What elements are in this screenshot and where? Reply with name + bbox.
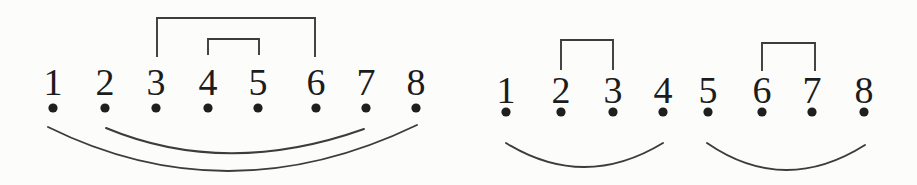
point-label-2: 2 <box>552 69 571 111</box>
pairing-diagrams-canvas: 1234567812345678 <box>0 0 917 185</box>
point-label-5: 5 <box>699 69 718 111</box>
point-label-6: 6 <box>307 61 326 103</box>
bottom-arc-2-7 <box>106 128 364 153</box>
point-dot-7 <box>807 107 816 116</box>
point-label-7: 7 <box>357 61 376 103</box>
left-matching-diagram: 12345678 <box>44 18 426 171</box>
point-dot-2 <box>100 103 109 112</box>
point-dot-3 <box>151 103 160 112</box>
top-bracket-2-3 <box>561 40 613 70</box>
point-label-1: 1 <box>497 69 516 111</box>
point-dot-8 <box>411 103 420 112</box>
point-label-2: 2 <box>96 61 115 103</box>
point-dot-1 <box>501 107 510 116</box>
point-dot-6 <box>311 103 320 112</box>
point-label-3: 3 <box>604 69 623 111</box>
point-dot-5 <box>703 107 712 116</box>
point-dot-7 <box>361 103 370 112</box>
point-dot-2 <box>556 107 565 116</box>
point-label-6: 6 <box>753 69 772 111</box>
top-bracket-6-7 <box>762 43 815 71</box>
top-bracket-4-5 <box>208 39 259 55</box>
point-label-4: 4 <box>654 69 673 111</box>
pairing-diagrams-figure: 1234567812345678 <box>0 0 917 185</box>
top-bracket-3-6 <box>157 18 315 57</box>
point-label-8: 8 <box>855 69 874 111</box>
right-matching-diagram: 12345678 <box>497 40 874 170</box>
point-dot-4 <box>203 103 212 112</box>
point-dot-3 <box>608 107 617 116</box>
point-dot-5 <box>253 103 262 112</box>
bottom-arc-1-8 <box>48 125 417 171</box>
bottom-arc-5-8 <box>707 143 865 170</box>
point-label-3: 3 <box>147 61 166 103</box>
point-dot-1 <box>48 103 57 112</box>
bottom-arc-1-4 <box>506 143 663 167</box>
point-label-4: 4 <box>199 61 218 103</box>
point-label-8: 8 <box>407 61 426 103</box>
point-dot-4 <box>658 107 667 116</box>
point-label-7: 7 <box>803 69 822 111</box>
point-dot-6 <box>757 107 766 116</box>
point-label-1: 1 <box>44 61 63 103</box>
point-label-5: 5 <box>249 61 268 103</box>
point-dot-8 <box>859 107 868 116</box>
